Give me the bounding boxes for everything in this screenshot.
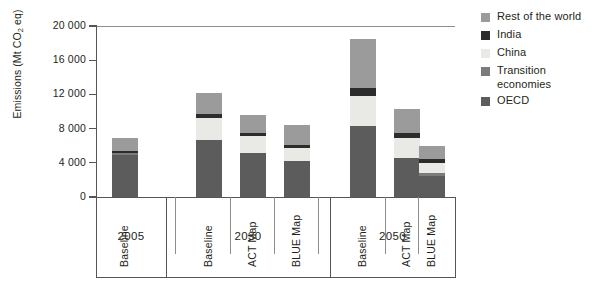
bar: [240, 115, 266, 197]
bar-segment: [350, 39, 376, 89]
y-axis-tick: [89, 25, 97, 26]
bar-segment: [419, 176, 445, 197]
bar: [284, 125, 310, 197]
bar-segment: [112, 138, 138, 151]
y-axis-tick: [89, 162, 97, 163]
bar-segment: [394, 138, 420, 158]
bar-segment: [284, 145, 310, 148]
bar-segment: [196, 140, 222, 197]
bar-segment: [112, 151, 138, 153]
y-axis-tick-label: 4 000: [0, 156, 86, 168]
bar-segment: [240, 133, 266, 136]
bar-segment: [284, 148, 310, 161]
y-axis-tick-label: 16 000: [0, 53, 86, 65]
y-axis-tick: [89, 128, 97, 129]
bar-segment: [419, 163, 445, 173]
y-axis-tick-label: 0: [0, 190, 86, 202]
legend-item[interactable]: Transition economies: [481, 64, 603, 91]
legend-item[interactable]: Rest of the world: [481, 10, 603, 25]
legend-item[interactable]: India: [481, 28, 603, 43]
x-axis-year-label: 2030: [166, 230, 330, 242]
scenario-separator: [385, 197, 386, 254]
legend-item-label: India: [497, 28, 603, 42]
emissions-stacked-bar-chart: Emissions (Mt CO2 eq) 04 0008 00012 0001…: [0, 0, 607, 301]
bar-segment: [196, 118, 222, 139]
y-axis-tick: [89, 60, 97, 61]
scenario-separator: [230, 197, 231, 254]
bar: [419, 146, 445, 197]
legend-swatch-icon: [481, 97, 490, 106]
legend-item[interactable]: China: [481, 46, 603, 61]
bar-segment: [112, 153, 138, 156]
band-edge: [455, 197, 456, 278]
bar: [394, 109, 420, 197]
bar-segment: [394, 158, 420, 197]
legend-item-label: Rest of the world: [497, 10, 603, 24]
bar: [112, 138, 138, 197]
y-axis-tick-label: 20 000: [0, 19, 86, 31]
scenario-separator: [274, 197, 275, 254]
legend-item-label: China: [497, 46, 603, 60]
legend-swatch-icon: [481, 31, 490, 40]
x-axis-scenario-label: ACT Map: [246, 221, 258, 267]
legend-swatch-icon: [481, 13, 490, 22]
bar-segment: [419, 146, 445, 160]
bar-segment: [284, 161, 310, 197]
legend-swatch-icon: [481, 67, 490, 76]
bar-segment: [284, 125, 310, 145]
bar: [196, 93, 222, 197]
legend-item-label: OECD: [497, 94, 603, 108]
bar-segment: [196, 93, 222, 114]
bar-segment: [350, 88, 376, 96]
x-axis-band-bottom-border: [96, 277, 455, 278]
bar-segment: [196, 114, 222, 118]
bar: [350, 39, 376, 197]
legend: Rest of the worldIndiaChinaTransition ec…: [481, 10, 603, 112]
scenario-separator: [418, 197, 419, 254]
bar-segment: [350, 96, 376, 126]
legend-swatch-icon: [481, 49, 490, 58]
y-axis-tick-label: 8 000: [0, 122, 86, 134]
bar-segment: [419, 159, 445, 162]
bar-segment: [240, 115, 266, 133]
bar-segment: [112, 155, 138, 197]
bar-segment: [394, 109, 420, 133]
bar-segment: [240, 153, 266, 197]
bar-segment: [350, 126, 376, 197]
legend-item[interactable]: OECD: [481, 94, 603, 109]
y-axis-tick-label: 12 000: [0, 87, 86, 99]
legend-item-label: Transition economies: [497, 64, 603, 91]
x-axis-year-label: 2050: [330, 230, 455, 242]
x-axis-scenario-label: ACT Map: [400, 221, 412, 267]
y-axis-tick: [89, 94, 97, 95]
scenario-separator: [175, 197, 176, 254]
bar-segment: [419, 173, 445, 176]
x-axis-year-label: 2005: [96, 230, 166, 242]
bar-segment: [394, 133, 420, 138]
bar-segment: [240, 136, 266, 153]
scenario-separator: [318, 197, 319, 254]
y-axis-title-pre: Emissions (Mt CO: [11, 32, 23, 118]
